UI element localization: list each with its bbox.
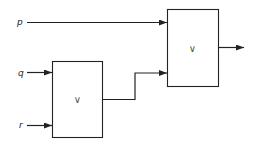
logic-diagram: p q r ∨ ∨ [0,0,253,145]
gate2-or-symbol: ∨ [189,43,196,54]
input-label-p: p [16,17,23,27]
gate1-or-symbol: ∨ [74,94,81,105]
input-label-q: q [18,68,24,78]
input-label-r: r [19,120,24,130]
wire-gate1-to-gate2 [103,73,167,100]
